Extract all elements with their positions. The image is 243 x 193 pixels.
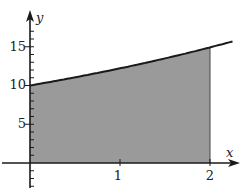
x-axis-label: x	[226, 145, 234, 160]
y-axis-label: y	[35, 10, 44, 25]
y-tick-label-5: 5	[18, 116, 26, 131]
x-tick-label-2: 2	[206, 168, 214, 183]
y-tick-label-10: 10	[9, 77, 26, 92]
y-tick-label-15: 15	[9, 39, 26, 54]
x-tick-label-1: 1	[114, 168, 122, 183]
shaded-area	[30, 47, 210, 163]
chart: y x 15 10 5 1 2	[0, 0, 243, 193]
